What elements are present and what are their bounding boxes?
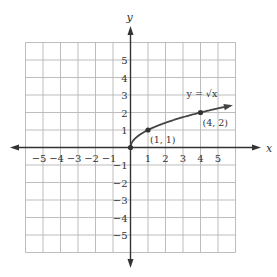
x-tick-label: −2 (84, 153, 99, 164)
x-axis-label: x (266, 142, 273, 155)
data-point (145, 127, 150, 132)
y-tick-label: 1 (121, 125, 127, 136)
data-point (198, 110, 203, 115)
x-tick-label: 1 (145, 153, 151, 164)
y-axis-label: y (126, 11, 134, 24)
point-label: (4, 2) (203, 117, 229, 128)
x-tick-label: −5 (32, 153, 47, 164)
y-tick-label: −4 (113, 213, 128, 224)
x-tick-label: −4 (49, 153, 64, 164)
y-tick-label: −2 (113, 178, 128, 189)
x-tick-label: 3 (180, 153, 186, 164)
x-tick-label: 5 (215, 153, 221, 164)
y-tick-label: 2 (121, 108, 127, 119)
y-tick-label: 3 (121, 90, 127, 101)
x-tick-label: 2 (162, 153, 168, 164)
data-point (128, 145, 133, 150)
axes (10, 26, 261, 268)
y-tick-label: −1 (113, 160, 128, 171)
x-tick-label: −3 (67, 153, 82, 164)
function-label: y = √x (186, 88, 218, 99)
sqrt-function-graph: −5−4−3−2−112345−5−4−3−2−112345 (1, 1)(4,… (0, 0, 277, 277)
function-label-text: y = √x (186, 88, 218, 99)
x-tick-label: 4 (197, 153, 203, 164)
y-tick-label: 5 (121, 55, 127, 66)
y-tick-label: 4 (121, 73, 127, 84)
y-tick-label: −5 (113, 230, 128, 241)
point-label: (1, 1) (150, 134, 176, 145)
y-tick-label: −3 (113, 195, 128, 206)
